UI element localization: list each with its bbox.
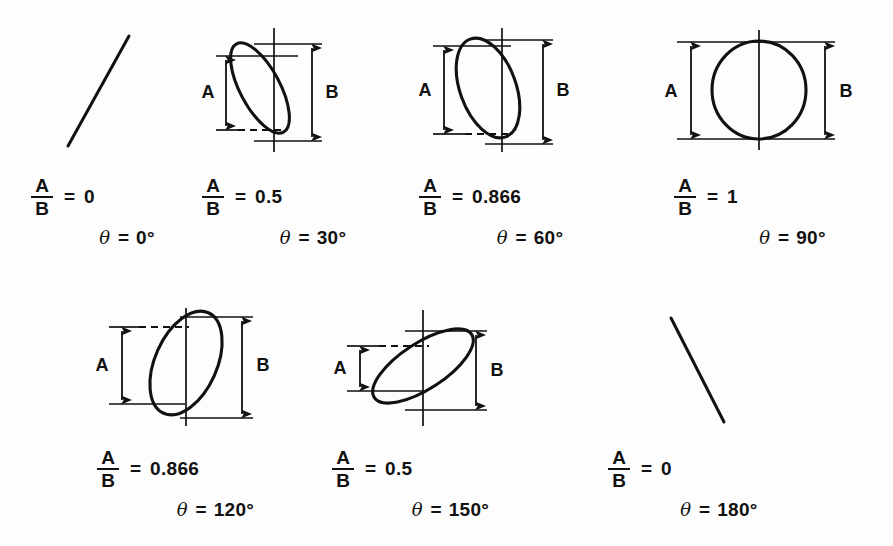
dimension-label-a: A — [334, 358, 347, 378]
theta-line: θ = 120° — [97, 499, 312, 521]
theta-symbol: θ — [99, 227, 110, 248]
lissajous-ellipse — [219, 34, 301, 141]
theta-equals-sign: = — [778, 227, 789, 249]
ratio-numerator: A — [333, 448, 353, 468]
dimension-label-a: A — [419, 80, 432, 100]
figure-theta-60: A B — [411, 24, 611, 156]
theta-line: θ = 60° — [419, 227, 619, 249]
ratio-denominator: B — [203, 198, 223, 218]
theta-equals-sign: = — [516, 227, 527, 249]
figure-theta-90: A B — [655, 24, 870, 156]
panel-theta-150: A B A B = 0.5 θ = 150° — [317, 300, 532, 521]
ratio-fraction: A B — [31, 176, 53, 218]
figure-theta-150: A B — [317, 300, 532, 430]
equals-sign: = — [707, 186, 718, 208]
ratio-numerator: A — [420, 176, 440, 196]
theta-line: θ = 150° — [332, 499, 547, 521]
dimension-label-a: A — [665, 81, 678, 101]
ratio-fraction: A B — [332, 448, 354, 490]
theta-equals-sign: = — [118, 227, 129, 249]
ratio-value: 0 — [84, 186, 95, 208]
dimension-label-b: B — [326, 82, 339, 102]
figure-theta-0 — [18, 24, 188, 156]
ratio-numerator: A — [609, 448, 629, 468]
equals-sign: = — [452, 186, 463, 208]
dimension-label-b: B — [840, 81, 853, 101]
ratio-fraction: A B — [97, 448, 119, 490]
ratio-value: 0.5 — [255, 186, 282, 208]
ratio-fraction: A B — [202, 176, 224, 218]
theta-symbol: θ — [412, 499, 423, 520]
theta-value: 30° — [317, 227, 347, 249]
figure-theta-180 — [590, 300, 790, 430]
lissajous-line-positive — [68, 36, 129, 146]
ratio-denominator: B — [333, 470, 353, 490]
ratio-value: 0.866 — [150, 458, 199, 480]
ratio-denominator: B — [675, 198, 695, 218]
theta-symbol: θ — [680, 499, 691, 520]
labels-theta-150: A B = 0.5 θ = 150° — [302, 448, 547, 521]
ratio-numerator: A — [32, 176, 52, 196]
ratio-fraction: A B — [674, 176, 696, 218]
ratio-denominator: B — [98, 470, 118, 490]
theta-value: 90° — [796, 227, 826, 249]
ratio-value: 1 — [727, 186, 738, 208]
panel-theta-120: A B A B = 0.866 θ = 120° — [85, 300, 300, 521]
dimension-label-a: A — [202, 82, 215, 102]
labels-theta-120: A B = 0.866 θ = 120° — [73, 448, 312, 521]
labels-theta-90: A B = 1 θ = 90° — [636, 176, 889, 249]
theta-equals-sign: = — [196, 499, 207, 521]
labels-theta-180: A B = 0 θ = 180° — [572, 448, 808, 521]
theta-value: 60° — [534, 227, 564, 249]
theta-equals-sign: = — [299, 227, 310, 249]
labels-theta-60: A B = 0.866 θ = 60° — [403, 176, 619, 249]
ratio-fraction: A B — [608, 448, 630, 490]
dimension-label-b: B — [491, 360, 504, 380]
ratio-numerator: A — [203, 176, 223, 196]
dimension-label-a: A — [96, 355, 109, 375]
ratio-value: 0 — [661, 458, 672, 480]
ratio-numerator: A — [98, 448, 118, 468]
theta-symbol: θ — [280, 227, 291, 248]
ratio-denominator: B — [609, 470, 629, 490]
dimension-label-b: B — [257, 355, 270, 375]
ratio-denominator: B — [32, 198, 52, 218]
theta-symbol: θ — [177, 499, 188, 520]
ratio-line: A B = 0.866 — [97, 448, 312, 490]
panel-theta-180: A B = 0 θ = 180° — [590, 300, 790, 521]
dimension-label-b: B — [557, 80, 570, 100]
theta-symbol: θ — [759, 227, 770, 248]
equals-sign: = — [641, 458, 652, 480]
ratio-denominator: B — [420, 198, 440, 218]
ratio-value: 0.866 — [472, 186, 521, 208]
theta-line: θ = 180° — [608, 499, 808, 521]
figure-theta-120: A B — [85, 300, 300, 430]
theta-line: θ = 90° — [674, 227, 889, 249]
theta-equals-sign: = — [699, 499, 710, 521]
ratio-line: A B = 0 — [608, 448, 808, 490]
figure-theta-30: A B — [186, 24, 386, 156]
equals-sign: = — [130, 458, 141, 480]
theta-value: 150° — [449, 499, 490, 521]
ratio-line: A B = 1 — [674, 176, 889, 218]
theta-value: 120° — [214, 499, 255, 521]
lissajous-line-negative — [671, 318, 724, 422]
panel-theta-0: A B = 0 θ = 0° — [18, 24, 188, 249]
theta-line: θ = 30° — [202, 227, 402, 249]
theta-value: 180° — [717, 499, 758, 521]
ratio-line: A B = 0.5 — [202, 176, 402, 218]
theta-value: 0° — [136, 227, 155, 249]
figure-sheet: A B = 0 θ = 0° — [0, 0, 893, 546]
panel-theta-30: A B A B = 0.5 θ = 30° — [186, 24, 386, 249]
panel-theta-90: A B A B = 1 θ = 90° — [655, 24, 870, 249]
labels-theta-30: A B = 0.5 θ = 30° — [170, 176, 402, 249]
ratio-line: A B = 0.5 — [332, 448, 547, 490]
ratio-value: 0.5 — [385, 458, 412, 480]
equals-sign: = — [235, 186, 246, 208]
theta-equals-sign: = — [431, 499, 442, 521]
lissajous-ellipse — [444, 30, 532, 147]
ratio-fraction: A B — [419, 176, 441, 218]
ratio-numerator: A — [675, 176, 695, 196]
panel-theta-60: A B A B = 0.866 θ = 60° — [411, 24, 611, 249]
theta-symbol: θ — [497, 227, 508, 248]
